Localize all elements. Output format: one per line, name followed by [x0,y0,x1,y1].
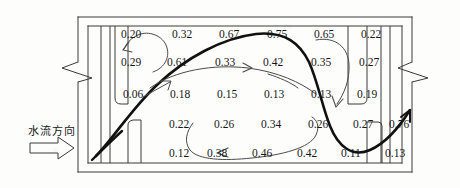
value-cell: 0.46 [252,147,272,159]
value-cell: 0.22 [361,28,381,40]
value-cell: 0.34 [261,118,281,130]
value-cell: 0.27 [359,56,379,68]
value-cell: 0.61 [167,56,187,68]
value-cell: 0.42 [263,56,283,68]
value-cell: 0.42 [297,147,317,159]
bottom-sill-left [128,120,141,163]
value-cell: 0.11 [341,147,361,159]
value-cell: 0.29 [121,56,141,68]
value-cell: 0.26 [214,118,234,130]
value-cell: 0.12 [169,147,189,159]
value-cell: 0.20 [121,28,141,40]
value-cell: 0.35 [311,56,331,68]
value-cell: 0.13 [311,88,331,100]
value-cell: 0.13 [264,88,284,100]
streamline-left-entry [92,131,122,160]
value-cell: 0.67 [219,28,239,40]
value-cell: 0.19 [357,88,377,100]
value-cell: 0.32 [172,28,192,40]
value-cell: 0.75 [267,28,287,40]
value-cell: 0.65 [314,28,334,40]
flow-direction-arrow-icon [30,137,74,159]
value-cell: 0.38 [207,147,227,159]
value-cell: 0.33 [215,56,235,68]
value-cell: 0.26 [308,118,328,130]
flow-direction-label: 水流方向 [28,122,76,138]
value-cell: 0.18 [170,88,190,100]
value-cell: 0.76 [389,118,409,130]
value-cell: 0.13 [385,147,405,159]
value-cell: 0.27 [353,118,373,130]
value-cell: 0.15 [217,88,237,100]
value-cell: 0.22 [169,118,189,130]
value-cell: 0.06 [123,88,143,100]
figure-canvas: 0.20 0.32 0.67 0.75 0.65 0.22 0.29 0.61 … [0,0,460,188]
